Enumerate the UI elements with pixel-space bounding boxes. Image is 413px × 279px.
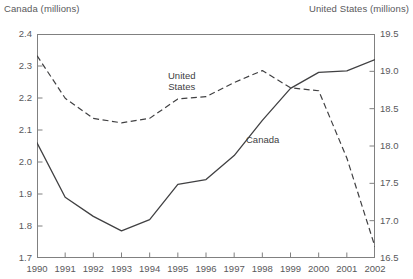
series-label-canada: Canada [246,134,279,145]
plot-svg [37,34,375,258]
left-tick-1-8: 1.8 [2,220,32,231]
right-axis-title: United States (millions) [309,3,409,14]
series-line-canada [37,60,375,231]
right-tick-16-5: 16.5 [380,252,413,263]
series-line-united-states [37,56,375,247]
left-tick-2-4: 2.4 [2,28,32,39]
left-tick-2-3: 2.3 [2,60,32,71]
x-tick-2002: 2002 [358,263,392,274]
right-tick-17-5: 17.5 [380,177,413,188]
right-tick-18-0: 18.0 [380,140,413,151]
series-label-united-states-line2: States [168,81,195,92]
right-tick-19-5: 19.5 [380,28,413,39]
bottom-axis-ticks [37,253,375,258]
series-label-united-states-line1: United [168,70,195,81]
axis-frame [37,34,375,258]
series-label-united-states: United States [168,70,195,92]
left-tick-1-9: 1.9 [2,188,32,199]
chart-figure: Canada (millions) United States (million… [0,0,413,279]
right-tick-17-0: 17.0 [380,215,413,226]
left-tick-2-2: 2.2 [2,92,32,103]
left-tick-2-0: 2.0 [2,156,32,167]
left-tick-2-1: 2.1 [2,124,32,135]
plot-area [37,34,375,258]
right-tick-19-0: 19.0 [380,65,413,76]
right-axis-ticks [370,34,375,258]
left-axis-title: Canada (millions) [4,3,80,14]
right-tick-18-5: 18.5 [380,103,413,114]
left-tick-1-7: 1.7 [2,252,32,263]
